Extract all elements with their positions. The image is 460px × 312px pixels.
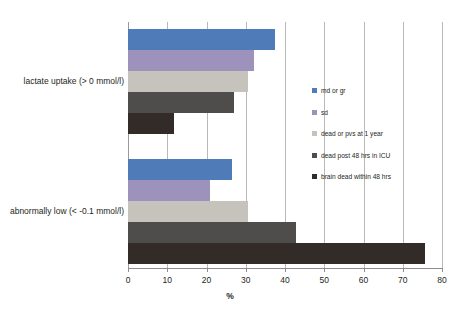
x-tick-label-70: 70 [388,275,418,285]
plot-area [128,22,442,268]
legend: md or grsddead or pvs at 1 yeardead post… [312,80,391,188]
legend-swatch-icon [312,110,317,115]
bar-md-or-gr-0 [128,29,275,50]
x-tick-label-80: 80 [427,275,457,285]
gridline-80 [442,22,443,268]
legend-label: dead post 48 hrs in ICU [321,152,390,159]
bar-md-or-gr-1 [128,159,232,180]
legend-label: dead or pvs at 1 year [321,130,383,137]
gridline-70 [403,22,404,268]
category-label-1: abnormally low (< -0.1 mmol/l) [0,206,124,216]
tick-mark-10 [167,268,168,272]
legend-item-3: dead post 48 hrs in ICU [312,145,391,167]
tick-mark-80 [442,268,443,272]
category-label-0: lactate uptake (> 0 mmol/l) [0,76,124,86]
x-tick-label-40: 40 [270,275,300,285]
tick-mark-50 [324,268,325,272]
legend-item-4: brain dead within 48 hrs [312,166,391,188]
bar-sd-0 [128,50,254,71]
bar-dead-or-pvs-at-1-year-1 [128,201,248,222]
bar-dead-or-pvs-at-1-year-0 [128,71,248,92]
tick-mark-20 [207,268,208,272]
bar-brain-dead-within-48-hrs-0 [128,113,174,134]
x-tick-label-20: 20 [192,275,222,285]
bar-brain-dead-within-48-hrs-1 [128,243,425,264]
legend-label: brain dead within 48 hrs [321,173,391,180]
legend-label: sd [321,109,328,116]
legend-label: md or gr [321,87,346,94]
legend-swatch-icon [312,174,317,179]
legend-swatch-icon [312,153,317,158]
bar-dead-post-48-hrs-in-icu-0 [128,92,234,113]
tick-mark-40 [285,268,286,272]
legend-item-2: dead or pvs at 1 year [312,123,391,145]
x-tick-label-30: 30 [231,275,261,285]
bar-dead-post-48-hrs-in-icu-1 [128,222,296,243]
legend-swatch-icon [312,131,317,136]
bar-chart: 01020304050607080 % lactate uptake (> 0 … [0,0,460,312]
tick-mark-60 [364,268,365,272]
tick-mark-30 [246,268,247,272]
legend-item-0: md or gr [312,80,391,102]
x-axis-title: % [0,291,460,301]
tick-mark-70 [403,268,404,272]
bar-sd-1 [128,180,210,201]
legend-item-1: sd [312,102,391,124]
x-tick-label-50: 50 [309,275,339,285]
tick-mark-0 [128,268,129,272]
legend-swatch-icon [312,88,317,93]
x-tick-label-0: 0 [113,275,143,285]
x-tick-label-60: 60 [349,275,379,285]
x-tick-label-10: 10 [152,275,182,285]
